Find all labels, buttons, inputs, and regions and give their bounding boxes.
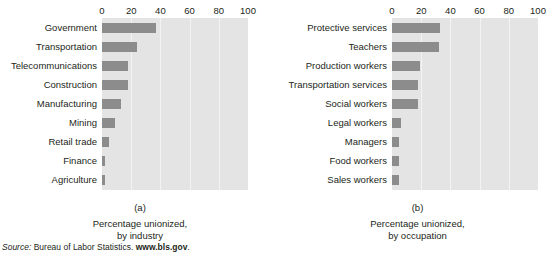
bar xyxy=(102,175,105,185)
x-tick-label: 0 xyxy=(389,4,394,18)
bar-row: Retail trade xyxy=(102,133,248,151)
bar-row: Social workers xyxy=(392,95,538,113)
category-label: Transportation services xyxy=(289,76,387,94)
bar-row: Legal workers xyxy=(392,114,538,132)
bar-row: Mining xyxy=(102,114,248,132)
bar xyxy=(102,99,121,109)
x-tick-label: 80 xyxy=(214,4,225,18)
bar-row: Production workers xyxy=(392,57,538,75)
bar-row: Protective services xyxy=(392,19,538,37)
bar-row: Transportation services xyxy=(392,76,538,94)
caption-b-line2: by occupation xyxy=(278,230,557,243)
source-period: . xyxy=(187,242,189,252)
x-tick-label: 60 xyxy=(474,4,485,18)
category-label: Telecommunications xyxy=(11,57,97,75)
bar-row: Food workers xyxy=(392,152,538,170)
bar xyxy=(392,156,399,166)
category-label: Teachers xyxy=(348,38,387,56)
category-label: Food workers xyxy=(329,152,387,170)
bar xyxy=(392,99,418,109)
bar xyxy=(392,61,420,71)
bar xyxy=(392,23,440,33)
chart-panel-b: 020406080100 Protective servicesTeachers… xyxy=(278,4,557,190)
bar-row: Telecommunications xyxy=(102,57,248,75)
x-tick-label: 20 xyxy=(126,4,137,18)
plot-area-b: Protective servicesTeachersProduction wo… xyxy=(392,18,538,190)
caption-a-line2: by industry xyxy=(0,230,280,243)
category-label: Agriculture xyxy=(52,171,97,189)
x-tick-label: 40 xyxy=(445,4,456,18)
category-label: Social workers xyxy=(325,95,387,113)
category-label: Legal workers xyxy=(328,114,387,132)
panel-letter-a: (a) xyxy=(0,202,280,215)
bar xyxy=(102,42,137,52)
bar-row: Manufacturing xyxy=(102,95,248,113)
category-label: Protective services xyxy=(307,19,387,37)
bar xyxy=(102,61,128,71)
x-tick-label: 40 xyxy=(155,4,166,18)
bar xyxy=(392,42,439,52)
category-label: Finance xyxy=(63,152,97,170)
figure-two-bar-charts: 020406080100 GovernmentTransportationTel… xyxy=(0,0,557,260)
bar xyxy=(392,137,399,147)
bar-row: Sales workers xyxy=(392,171,538,189)
bar-row: Finance xyxy=(102,152,248,170)
bar xyxy=(102,80,128,90)
panel-letter-b: (b) xyxy=(278,202,557,215)
caption-a-line1: Percentage unionized, xyxy=(0,218,280,231)
category-label: Mining xyxy=(69,114,97,132)
category-label: Managers xyxy=(345,133,387,151)
x-axis-ticks-b: 020406080100 xyxy=(392,4,538,18)
source-text: Bureau of Labor Statistics. xyxy=(31,242,135,252)
source-note: Source: Bureau of Labor Statistics. www.… xyxy=(2,242,190,253)
category-label: Production workers xyxy=(306,57,387,75)
category-label: Transportation xyxy=(36,38,97,56)
bar-row: Agriculture xyxy=(102,171,248,189)
category-label: Retail trade xyxy=(48,133,97,151)
caption-b: (b) Percentage unionized, by occupation xyxy=(278,202,557,243)
source-label: Source: xyxy=(2,242,31,252)
x-tick-label: 60 xyxy=(184,4,195,18)
bar xyxy=(392,80,418,90)
x-tick-label: 80 xyxy=(504,4,515,18)
bar xyxy=(392,118,401,128)
bar-row: Teachers xyxy=(392,38,538,56)
category-label: Sales workers xyxy=(327,171,387,189)
x-tick-label: 20 xyxy=(416,4,427,18)
category-label: Construction xyxy=(44,76,97,94)
category-label: Manufacturing xyxy=(37,95,97,113)
caption-b-line1: Percentage unionized, xyxy=(278,218,557,231)
bar xyxy=(102,118,115,128)
bar-row: Transportation xyxy=(102,38,248,56)
bars-b: Protective servicesTeachersProduction wo… xyxy=(392,18,538,190)
bar xyxy=(392,175,399,185)
x-axis-ticks-a: 020406080100 xyxy=(102,4,248,18)
bar-row: Managers xyxy=(392,133,538,151)
bar xyxy=(102,156,105,166)
bar-row: Construction xyxy=(102,76,248,94)
x-tick-label: 100 xyxy=(240,4,256,18)
x-tick-label: 0 xyxy=(99,4,104,18)
x-tick-label: 100 xyxy=(530,4,546,18)
source-url[interactable]: www.bls.gov xyxy=(136,242,188,252)
chart-panel-a: 020406080100 GovernmentTransportationTel… xyxy=(0,4,280,190)
plot-area-a: GovernmentTransportationTelecommunicatio… xyxy=(102,18,248,190)
caption-a: (a) Percentage unionized, by industry xyxy=(0,202,280,243)
bar-row: Government xyxy=(102,19,248,37)
bars-a: GovernmentTransportationTelecommunicatio… xyxy=(102,18,248,190)
bar xyxy=(102,137,109,147)
bar xyxy=(102,23,156,33)
category-label: Government xyxy=(45,19,97,37)
